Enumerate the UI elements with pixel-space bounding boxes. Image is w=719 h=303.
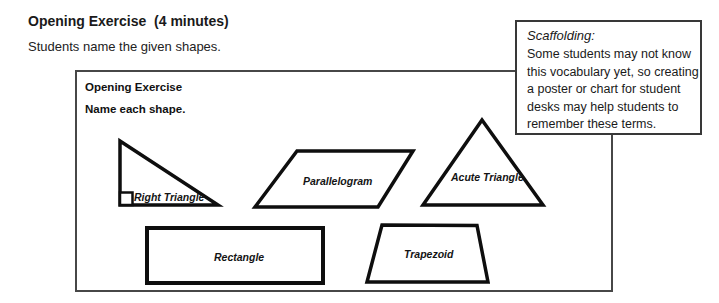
worksheet-heading: Opening Exercise bbox=[85, 81, 182, 93]
page-title: Opening Exercise (4 minutes) bbox=[28, 13, 229, 29]
scaffolding-line: a poster or chart for student bbox=[527, 81, 692, 99]
right-triangle-label: Right Triangle bbox=[134, 191, 204, 203]
scaffolding-line: this vocabulary yet, so creating bbox=[527, 64, 692, 82]
scaffolding-line: desks may help students to bbox=[527, 99, 692, 117]
page: Opening Exercise (4 minutes) Students na… bbox=[0, 0, 719, 303]
scaffolding-title: Scaffolding: bbox=[527, 28, 692, 43]
scaffolding-box: Scaffolding: Some students may not know … bbox=[515, 20, 702, 135]
acute-triangle-label: Acute Triangle bbox=[451, 171, 524, 183]
scaffolding-line: Some students may not know bbox=[527, 46, 692, 64]
right-angle-marker bbox=[120, 193, 133, 206]
rectangle-label: Rectangle bbox=[214, 251, 264, 263]
worksheet-instruction: Name each shape. bbox=[85, 103, 185, 115]
trapezoid-label: Trapezoid bbox=[404, 248, 453, 260]
parallelogram-label: Parallelogram bbox=[303, 175, 372, 187]
scaffolding-line: remember these terms. bbox=[527, 116, 692, 134]
page-subtitle: Students name the given shapes. bbox=[28, 39, 221, 54]
